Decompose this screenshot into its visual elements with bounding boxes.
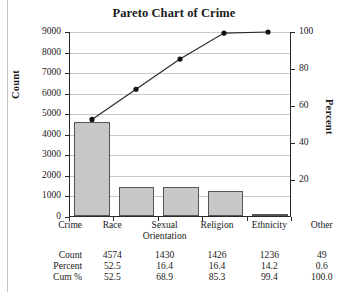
plot-area <box>69 32 291 217</box>
pareto-chart: Pareto Chart of Crime Count Percent 9000… <box>0 0 348 301</box>
category-cell-1: Sexual Orientation <box>138 219 190 242</box>
cumulative-marker-2 <box>177 56 182 61</box>
count-value-0: 4574 <box>86 249 138 260</box>
gridline <box>70 32 290 33</box>
y-tick-right <box>291 32 295 33</box>
percent-value-3: 14.2 <box>243 260 295 271</box>
row-label-percent: Percent <box>0 260 86 271</box>
gridline <box>70 73 290 74</box>
category-cell-2: Religion <box>191 219 243 242</box>
gridline <box>70 94 290 95</box>
cum-value-4: 100.0 <box>296 271 348 282</box>
y-tick-label-left: 5000 <box>19 109 61 119</box>
y-tick-label-left: 1000 <box>19 191 61 201</box>
row-label-cum: Cum % <box>0 271 86 282</box>
category-label-1-line2: Orientation <box>138 230 190 241</box>
count-value-1: 1430 <box>138 249 190 260</box>
category-label-4-line1: Other <box>311 219 333 230</box>
category-label-0-line1: Race <box>103 219 122 230</box>
table-row-cum: Cum % 52.5 68.9 85.3 99.4 100.0 <box>0 271 348 282</box>
data-table: Crime Race Sexual Orientation Religion E… <box>0 219 348 283</box>
y-tick-label-right: 40 <box>299 138 329 148</box>
y-tick-right <box>291 143 295 144</box>
cum-value-3: 99.4 <box>243 271 295 282</box>
count-value-3: 1236 <box>243 249 295 260</box>
y-tick-right <box>291 180 295 181</box>
y-tick-label-right: 80 <box>299 64 329 74</box>
bar-race <box>74 122 110 216</box>
cum-value-0: 52.5 <box>86 271 138 282</box>
cumulative-marker-1 <box>133 87 138 92</box>
y-tick-label-left: 9000 <box>19 27 61 37</box>
y-tick-label-left: 3000 <box>19 150 61 160</box>
count-value-4: 49 <box>296 249 348 260</box>
y-tick-label-right: 60 <box>299 101 329 111</box>
bar-religion <box>163 187 199 216</box>
y-tick-label-left: 2000 <box>19 171 61 181</box>
table-row-percent: Percent 52.5 16.4 16.4 14.2 0.6 <box>0 260 348 271</box>
y-tick-label-left: 4000 <box>19 130 61 140</box>
percent-value-1: 16.4 <box>138 260 190 271</box>
category-cell-4: Other <box>296 219 348 242</box>
gridline <box>70 53 290 54</box>
cumulative-line-path <box>92 32 268 119</box>
table-row-count: Count 4574 1430 1426 1236 49 <box>0 249 348 260</box>
bar-other <box>252 214 288 216</box>
category-cell-0: Race <box>86 219 138 242</box>
category-cell-3: Ethnicity <box>243 219 295 242</box>
y-tick-label-left: 8000 <box>19 48 61 58</box>
category-label-2-line1: Religion <box>201 219 234 230</box>
category-label-3-line1: Ethnicity <box>252 219 287 230</box>
gridline <box>70 114 290 115</box>
y-tick-label-right: 100 <box>299 27 329 37</box>
chart-title: Pareto Chart of Crime <box>0 6 348 21</box>
count-value-2: 1426 <box>191 249 243 260</box>
table-spacer-row <box>0 242 348 249</box>
plot-inner <box>70 32 290 216</box>
percent-value-2: 16.4 <box>191 260 243 271</box>
y-tick-label-left: 6000 <box>19 89 61 99</box>
row-label-crime: Crime <box>0 219 86 242</box>
bar-ethnicity <box>208 191 244 216</box>
y-tick-right <box>291 69 295 70</box>
row-label-count: Count <box>0 249 86 260</box>
category-label-1-line1: Sexual <box>152 219 178 230</box>
y-tick-right <box>291 106 295 107</box>
percent-value-0: 52.5 <box>86 260 138 271</box>
y-tick-label-left: 7000 <box>19 68 61 78</box>
table-row-categories: Crime Race Sexual Orientation Religion E… <box>0 219 348 242</box>
bar-sexual-orientation <box>119 187 155 216</box>
cum-value-1: 68.9 <box>138 271 190 282</box>
y-tick-label-right: 20 <box>299 175 329 185</box>
percent-value-4: 0.6 <box>296 260 348 271</box>
cum-value-2: 85.3 <box>191 271 243 282</box>
